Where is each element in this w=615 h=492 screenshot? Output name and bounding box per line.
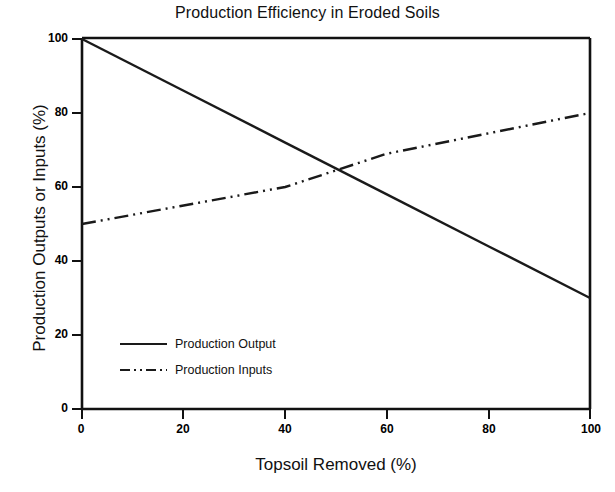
series-line-production-output [82, 39, 590, 298]
axis-frame [82, 38, 590, 409]
plot-area [0, 0, 615, 492]
chart-figure: Production Efficiency in Eroded Soils Pr… [0, 0, 615, 492]
y-axis-ticks [72, 39, 82, 409]
x-axis-ticks [82, 409, 590, 419]
